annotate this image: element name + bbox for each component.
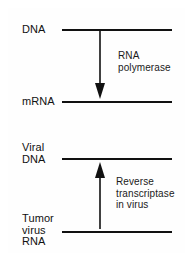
molecule-label-tumor-virus-rna: Tumor virus RNA: [22, 213, 54, 248]
molecule-label-viral-dna: Viral DNA: [22, 142, 46, 165]
strand-line-viral-dna: [62, 158, 172, 160]
molecule-label-dna: DNA: [22, 24, 46, 36]
reverse-transcription-arrow-up-icon: [92, 161, 108, 231]
strand-line-mrna: [62, 101, 172, 103]
strand-line-tumor-virus-rna: [62, 231, 172, 233]
strand-line-dna: [62, 29, 172, 31]
transcription-arrow-down-icon: [92, 29, 108, 101]
enzyme-label-reverse-transcriptase: Reverse transcriptase in virus: [116, 176, 175, 211]
enzyme-label-rna-polymerase: RNA polymerase: [118, 50, 171, 73]
biology-flow-diagram: DNA RNA polymerase mRNA Viral DNA Revers…: [0, 0, 195, 261]
molecule-label-mrna: mRNA: [22, 96, 55, 108]
